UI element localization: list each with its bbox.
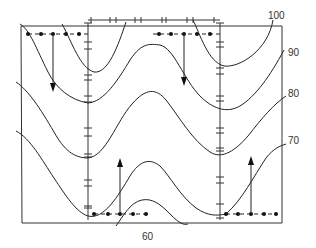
contour-70 [16, 131, 286, 216]
top-left-dotted-row [26, 32, 88, 36]
left-error-bar-column [84, 23, 92, 220]
top-error-bar-row [88, 17, 220, 23]
contour-label-100: 100 [268, 10, 285, 21]
contour-label-60: 60 [142, 231, 154, 242]
right-error-bar-column [216, 23, 224, 220]
down-arrow-left [50, 34, 56, 92]
contour-label-80: 80 [288, 88, 300, 99]
plot-frame [21, 26, 282, 223]
down-arrow-right [181, 34, 187, 86]
up-arrow-left [117, 158, 123, 214]
contour-60 [116, 200, 188, 226]
contour-label-70: 70 [288, 135, 300, 146]
contour-diagram: 100 90 80 70 60 [0, 0, 316, 248]
contour-90 [20, 24, 284, 110]
contour-100-right [193, 20, 273, 66]
contour-label-90: 90 [288, 47, 300, 58]
top-right-dotted-row [153, 32, 220, 36]
contour-80 [16, 82, 286, 158]
contour-100 [62, 22, 126, 72]
